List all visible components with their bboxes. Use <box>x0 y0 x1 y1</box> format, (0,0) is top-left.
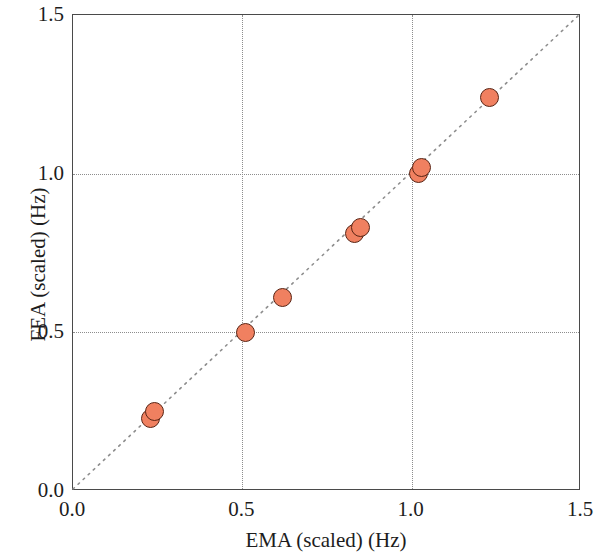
data-point <box>480 88 499 107</box>
x-tick-label-1.0: 1.0 <box>398 499 424 520</box>
plot-area <box>72 14 580 490</box>
scatter-plot-figure: 0.00.51.01.5 0.00.51.01.5 EMA (scaled) (… <box>0 0 595 559</box>
x-tick-label-0.5: 0.5 <box>228 499 254 520</box>
x-tick-label-1.5: 1.5 <box>567 499 593 520</box>
data-point <box>145 402 164 421</box>
data-point <box>236 323 255 342</box>
y-tick-label-1.5: 1.5 <box>26 4 64 25</box>
data-point <box>412 158 431 177</box>
x-tick-label-0.0: 0.0 <box>59 499 85 520</box>
y-axis-title: FEA (scaled) (Hz) <box>26 27 51 503</box>
x-axis-title: EMA (scaled) (Hz) <box>72 528 580 553</box>
